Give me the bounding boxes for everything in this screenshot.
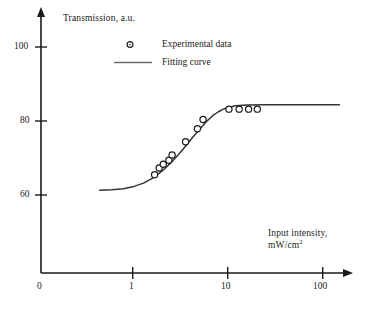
y-axis-title: Transmission, a.u. (63, 13, 135, 24)
x-tick-label-1: 1 (129, 281, 134, 291)
x-axis-title-unit: mW/cm (268, 240, 299, 250)
legend-label-experimental-data: Experimental data (162, 39, 231, 49)
data-point (236, 106, 242, 112)
y-tick-label-100: 100 (14, 41, 28, 51)
y-tick-label-80: 80 (20, 115, 30, 125)
x-axis-title-exponent: 2 (299, 238, 302, 245)
data-point (160, 161, 166, 167)
x-axis (41, 269, 353, 277)
x-axis-title-line2: mW/cm2 (268, 240, 303, 251)
experimental-data-markers (151, 106, 260, 178)
x-tick-label-10: 10 (221, 281, 231, 291)
data-point (182, 139, 188, 145)
data-point (246, 106, 252, 112)
transmission-vs-input-intensity-chart: Transmission, a.u. 100 80 60 0 1 10 100 … (0, 0, 370, 310)
legend-marker-experimental (127, 42, 133, 48)
data-point (194, 126, 200, 132)
x-tick-label-0: 0 (37, 281, 42, 291)
data-point (151, 172, 157, 178)
data-point (200, 116, 206, 122)
y-tick-label-60: 60 (20, 189, 30, 199)
data-point (226, 106, 232, 112)
x-axis-title-line1: Input intensity, (268, 228, 327, 239)
data-point (254, 106, 260, 112)
fitting-curve (100, 105, 340, 190)
x-tick-label-100: 100 (313, 281, 327, 291)
data-point (169, 152, 175, 158)
legend-label-fitting-curve: Fitting curve (162, 57, 211, 67)
